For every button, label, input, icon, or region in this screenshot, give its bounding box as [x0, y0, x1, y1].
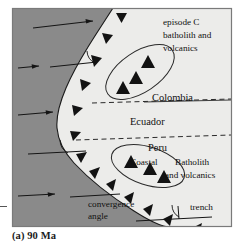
- label-episode-c-line2: batholith and: [163, 30, 212, 40]
- figure-container: episode C batholith and volcanics Colomb…: [0, 0, 240, 249]
- label-trench: trench: [190, 202, 213, 212]
- label-coastal: Coastal: [130, 157, 158, 167]
- label-ecuador: Ecuador: [130, 116, 165, 127]
- tectonic-map-diagram: episode C batholith and volcanics Colomb…: [0, 0, 240, 249]
- label-batholith: Batholith: [175, 157, 210, 167]
- label-peru: Peru: [148, 142, 168, 153]
- label-episode-c-line1: episode C: [163, 17, 200, 27]
- label-and-volcanics: and volcanics: [165, 170, 216, 180]
- label-convergence-line1: convergence: [88, 199, 134, 209]
- label-convergence-line2: angle: [88, 211, 108, 221]
- label-colombia: Colombia: [152, 92, 193, 103]
- figure-caption: (a) 90 Ma: [12, 230, 56, 241]
- label-episode-c-line3: volcanics: [163, 43, 198, 53]
